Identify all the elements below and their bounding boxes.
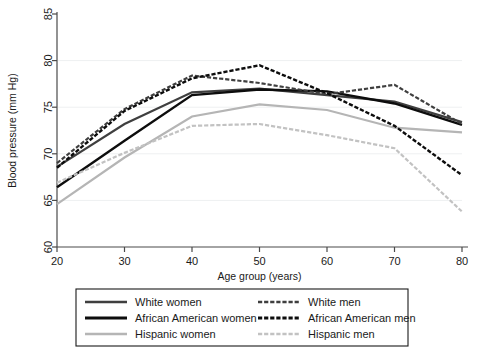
x-tick-label: 30 bbox=[118, 255, 130, 267]
y-tick-label: 75 bbox=[42, 101, 54, 113]
x-tick-label: 70 bbox=[388, 255, 400, 267]
x-tick-label: 20 bbox=[51, 255, 63, 267]
series-line-hispanic-men bbox=[57, 124, 462, 212]
y-axis-title: Blood pressure (mm Hg) bbox=[6, 73, 18, 187]
legend-label: White women bbox=[135, 296, 202, 308]
legend-label: Hispanic women bbox=[135, 328, 216, 340]
chart-canvas: 606570758085 20304050607080 Age group (y… bbox=[0, 0, 478, 358]
y-tick-label: 80 bbox=[42, 54, 54, 66]
legend-label: African American women bbox=[135, 312, 257, 324]
legend-label: White men bbox=[308, 296, 361, 308]
x-tick-label: 50 bbox=[253, 255, 265, 267]
legend-label: African American men bbox=[308, 312, 416, 324]
blood-pressure-by-age-chart: 606570758085 20304050607080 Age group (y… bbox=[0, 0, 478, 358]
chart-legend: White womenAfrican American womenHispani… bbox=[76, 289, 416, 346]
data-series-group bbox=[57, 65, 462, 211]
x-axis-title: Age group (years) bbox=[217, 270, 301, 282]
y-tick-label: 85 bbox=[42, 8, 54, 20]
x-axis-ticks: 20304050607080 bbox=[51, 247, 468, 267]
y-axis-ticks: 606570758085 bbox=[42, 8, 57, 253]
y-tick-label: 65 bbox=[42, 194, 54, 206]
y-tick-label: 70 bbox=[42, 148, 54, 160]
y-tick-label: 60 bbox=[42, 241, 54, 253]
legend-label: Hispanic men bbox=[308, 328, 375, 340]
x-tick-label: 60 bbox=[321, 255, 333, 267]
series-line-african-american-men bbox=[57, 65, 462, 175]
x-tick-label: 40 bbox=[186, 255, 198, 267]
x-tick-label: 80 bbox=[456, 255, 468, 267]
